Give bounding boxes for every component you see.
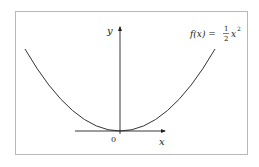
function-rhs-exponent: 2 [237, 25, 241, 32]
x-axis-label: x [159, 136, 165, 147]
y-axis-label: y [106, 25, 113, 36]
diagram-canvas: y x 0 f(x) = 1 2 x 2 [0, 0, 259, 167]
function-lhs: f(x) = [189, 29, 216, 39]
fraction-denominator: 2 [224, 35, 228, 43]
fraction-numerator: 1 [224, 25, 228, 33]
function-label: f(x) = 1 2 x 2 [189, 25, 241, 43]
origin-label: 0 [111, 135, 116, 144]
function-rhs-base: x [231, 29, 236, 39]
